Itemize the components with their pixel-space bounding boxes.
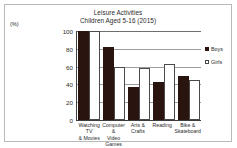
- bar-group: [127, 31, 152, 120]
- chart-figure: Leisure Activities Children Aged 5-16 (2…: [4, 4, 232, 142]
- bar-groups: [77, 31, 201, 120]
- chart-legend: BoysGirls: [205, 46, 223, 72]
- y-axis-tick-label: 80: [55, 45, 73, 52]
- x-axis-label: Arts & Crafts: [126, 122, 150, 148]
- chart-title: Leisure Activities: [5, 9, 231, 17]
- bar-girls: [114, 67, 125, 120]
- bar-boys: [153, 82, 164, 120]
- bar-girls: [89, 31, 100, 120]
- bar-boys: [78, 31, 89, 120]
- legend-item-boys: Boys: [205, 46, 223, 52]
- x-axis-category-labels: Watching TV& MoviesComputer &Video Games…: [77, 122, 201, 148]
- x-axis-label: Reading: [150, 122, 174, 148]
- bar-group: [176, 31, 201, 120]
- legend-label: Boys: [211, 46, 223, 52]
- chart-title-block: Leisure Activities Children Aged 5-16 (2…: [5, 9, 231, 25]
- bar-group: [102, 31, 127, 120]
- legend-item-girls: Girls: [205, 59, 223, 65]
- bar-girls: [189, 80, 200, 120]
- bar-girls: [139, 68, 150, 120]
- y-axis-tick-label: 40: [55, 81, 73, 88]
- legend-swatch-icon: [205, 60, 209, 64]
- y-axis-tick-label: 20: [55, 99, 73, 106]
- y-axis-tick-label: 60: [55, 63, 73, 70]
- x-axis-label: Bike &Skateboard: [174, 122, 201, 148]
- legend-swatch-icon: [205, 47, 209, 51]
- chart-subtitle: Children Aged 5-16 (2015): [5, 17, 231, 25]
- bar-boys: [178, 76, 189, 121]
- bar-group: [77, 31, 102, 120]
- bar-girls: [164, 64, 175, 120]
- x-axis-line: [76, 120, 201, 121]
- x-axis-label: Watching TV& Movies: [77, 122, 101, 148]
- y-axis-unit-label: (%): [10, 21, 19, 27]
- bar-boys: [128, 87, 139, 120]
- y-axis-tick-label: 100: [55, 28, 73, 35]
- x-axis-label: Computer &Video Games: [101, 122, 125, 148]
- plot-area: [77, 31, 201, 120]
- legend-label: Girls: [211, 59, 222, 65]
- y-axis-tick-label: 0: [55, 117, 73, 124]
- y-axis-tick-labels: 100806040200: [53, 31, 73, 120]
- bar-group: [151, 31, 176, 120]
- bar-boys: [103, 47, 114, 120]
